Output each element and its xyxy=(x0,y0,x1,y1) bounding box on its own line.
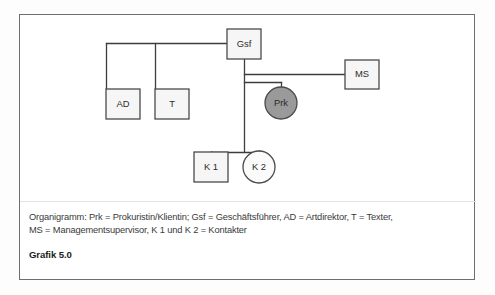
figure-label: Grafik 5.0 xyxy=(29,249,467,260)
caption-line-2: MS = Managementsupervisor, K 1 und K 2 =… xyxy=(29,224,467,237)
node-gsf: Gsf xyxy=(227,29,261,59)
node-k2: K 2 xyxy=(243,151,275,183)
caption-block: Organigramm: Prk = Prokuristin/Klientin;… xyxy=(29,211,467,260)
node-ad-label: AD xyxy=(116,98,129,109)
node-prk-label: Prk xyxy=(274,97,288,108)
page-background: Gsf MS Prk AD xyxy=(0,0,495,295)
node-gsf-label: Gsf xyxy=(237,38,252,49)
caption-line-1: Organigramm: Prk = Prokuristin/Klientin;… xyxy=(29,211,467,224)
node-k2-label: K 2 xyxy=(252,161,266,172)
node-t: T xyxy=(155,89,189,119)
node-prk: Prk xyxy=(265,87,297,119)
node-ms-label: MS xyxy=(355,68,369,79)
node-ad: AD xyxy=(106,89,140,119)
connector-layer xyxy=(107,44,346,153)
organigram-diagram: Gsf MS Prk AD xyxy=(20,15,476,201)
node-ms: MS xyxy=(345,60,379,89)
caption-divider xyxy=(20,201,476,202)
node-k1: K 1 xyxy=(194,152,228,182)
figure-frame: Gsf MS Prk AD xyxy=(19,14,475,280)
node-k1-label: K 1 xyxy=(204,161,218,172)
node-t-label: T xyxy=(169,98,175,109)
